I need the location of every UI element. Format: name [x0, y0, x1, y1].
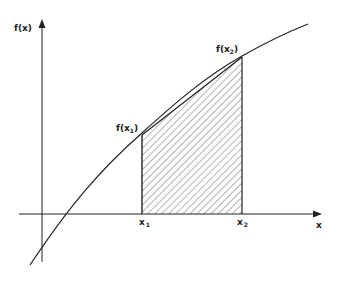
- label-x2: x2: [237, 217, 248, 228]
- x-axis-label: x: [316, 220, 322, 230]
- y-axis-label: f(x): [14, 23, 32, 33]
- label-f-x2: f(x2): [216, 44, 238, 55]
- x-axis-arrow-icon: [313, 211, 322, 218]
- y-axis-arrow-icon: [39, 19, 46, 28]
- label-f-x1: f(x1): [116, 123, 138, 134]
- y-axis: [39, 19, 46, 262]
- label-x1: x1: [139, 217, 150, 228]
- hatched-trapezoid-area: [142, 57, 242, 214]
- trapezoid-diagram: f(x) f(x1) f(x2) x1 x2 x: [0, 0, 337, 284]
